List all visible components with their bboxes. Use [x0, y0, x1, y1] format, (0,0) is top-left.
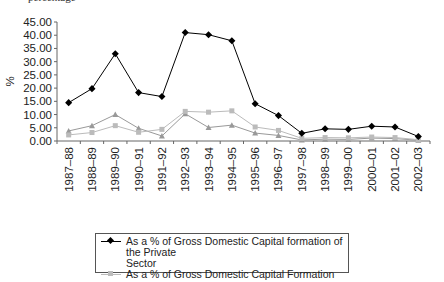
- data-point: [182, 29, 189, 36]
- data-point: [66, 132, 71, 137]
- legend-item-private-sector: As a % of Gross Domestic Capital formati…: [100, 236, 344, 269]
- y-tick-label: 40.00: [23, 29, 52, 41]
- data-point: [65, 99, 72, 106]
- x-tick-label: 1994–95: [226, 147, 238, 192]
- data-point: [391, 123, 398, 130]
- x-tick-label: 2002–03: [412, 147, 424, 192]
- y-tick-label: 20.00: [23, 82, 52, 94]
- data-point: [136, 130, 141, 135]
- data-point: [253, 124, 258, 129]
- y-tick-label: 30.00: [23, 56, 52, 68]
- y-axis-label: %: [4, 76, 16, 86]
- y-tick-label: 25.00: [23, 69, 52, 81]
- y-tick-label: 0.00: [30, 135, 52, 147]
- data-point: [183, 109, 188, 114]
- x-tick-label: 1995–96: [249, 147, 261, 192]
- x-tick-label: 1988–89: [86, 147, 98, 192]
- x-tick-label: 2000–01: [366, 147, 378, 192]
- data-point: [252, 100, 259, 107]
- data-point: [393, 135, 398, 140]
- data-point: [113, 123, 118, 128]
- x-tick-label: 1997–98: [296, 147, 308, 192]
- y-tick-label: 5.00: [30, 122, 52, 134]
- data-point: [345, 126, 352, 133]
- x-tick-label: 2001–02: [389, 147, 401, 192]
- x-tick-label: 1998–99: [319, 147, 331, 192]
- data-point: [112, 50, 119, 57]
- data-point: [229, 108, 234, 113]
- y-tick-label: 10.00: [23, 109, 52, 121]
- x-tick-label: 1989–90: [109, 147, 121, 192]
- y-tick-label: 35.00: [23, 42, 52, 54]
- square-marker-icon: [100, 269, 122, 280]
- chart-legend: As a % of Gross Domestic Capital formati…: [95, 233, 349, 273]
- data-point: [89, 130, 94, 135]
- data-point: [346, 135, 351, 140]
- data-point: [88, 85, 95, 92]
- data-point: [159, 127, 164, 132]
- x-tick-label: 1999–00: [342, 147, 354, 192]
- data-point: [369, 135, 374, 140]
- data-point: [228, 37, 235, 44]
- series-line: [69, 33, 419, 137]
- series-line: [69, 111, 419, 140]
- x-tick-label: 1991–92: [156, 147, 168, 192]
- x-tick-label: 1990–91: [133, 147, 145, 192]
- x-tick-label: 1993–94: [203, 146, 215, 191]
- x-tick-label: 1996–97: [272, 147, 284, 192]
- data-point: [322, 125, 329, 132]
- data-point: [135, 89, 142, 96]
- x-tick-label: 1987–88: [63, 147, 75, 192]
- line-chart: 0.005.0010.0015.0020.0025.0030.0035.0040…: [0, 0, 444, 232]
- y-tick-label: 15.00: [23, 95, 52, 107]
- data-point: [368, 123, 375, 130]
- legend-label: As a % of Gross Domestic Capital formati…: [126, 236, 344, 258]
- y-tick-label: 45.00: [23, 16, 52, 28]
- data-point: [276, 128, 281, 133]
- data-point: [206, 110, 211, 115]
- data-point: [89, 123, 95, 128]
- data-point: [112, 112, 118, 118]
- data-point: [323, 135, 328, 140]
- legend-label: As a % of Gross Domestic Capital Formati…: [126, 269, 334, 280]
- legend-item-gdcf: As a % of Gross Domestic Capital Formati…: [100, 269, 344, 280]
- x-tick-label: 1992–93: [179, 147, 191, 192]
- data-point: [205, 31, 212, 38]
- data-point: [158, 93, 165, 100]
- diamond-marker-icon: [100, 236, 122, 247]
